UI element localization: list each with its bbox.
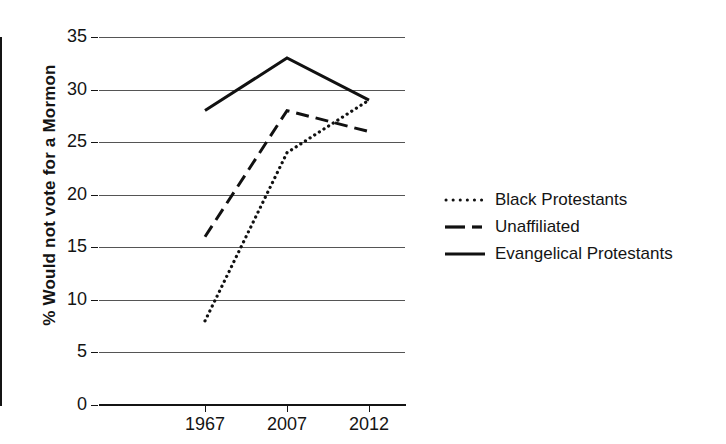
- legend-item: Evangelical Protestants: [444, 240, 719, 267]
- legend-item: Black Protestants: [444, 186, 719, 213]
- legend-item: Unaffiliated: [444, 213, 719, 240]
- legend-swatch-dashed-icon: [444, 220, 486, 234]
- series-line-black-protestants: [205, 100, 369, 321]
- legend-label: Evangelical Protestants: [495, 244, 673, 264]
- legend-swatch-dotted-icon: [444, 193, 486, 207]
- legend-swatch-solid-icon: [444, 247, 486, 261]
- legend-label: Unaffiliated: [495, 217, 580, 237]
- chart-legend: Black ProtestantsUnaffiliatedEvangelical…: [444, 186, 719, 267]
- chart-figure: % Would not vote for a Mormon 3530252015…: [0, 0, 726, 444]
- legend-label: Black Protestants: [495, 190, 627, 210]
- series-line-unaffiliated: [205, 111, 369, 237]
- series-line-evangelical-protestants: [205, 58, 369, 111]
